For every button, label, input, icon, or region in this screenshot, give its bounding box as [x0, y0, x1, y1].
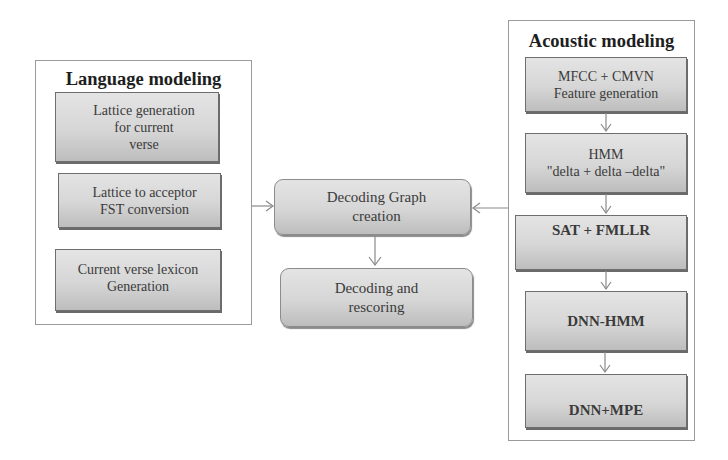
connectors [0, 0, 728, 460]
